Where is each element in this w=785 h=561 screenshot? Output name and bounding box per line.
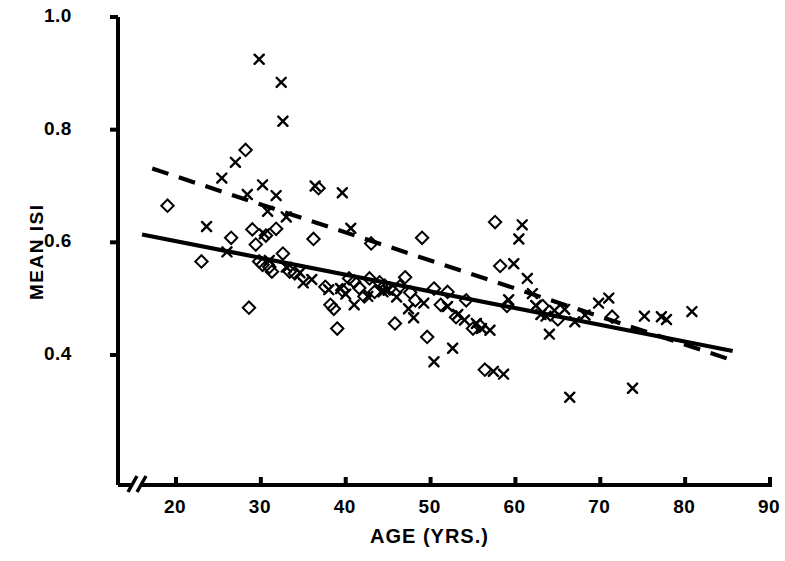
x-axis-label: AGE (YRS.) [370, 525, 489, 548]
y-tick-label: 1.0 [44, 5, 72, 27]
diamond-marker [243, 301, 255, 313]
x-marker [258, 180, 267, 189]
x-marker [687, 307, 696, 316]
x-marker [311, 181, 320, 190]
x-marker [545, 330, 554, 339]
diamond-marker [421, 331, 433, 343]
x-marker [350, 300, 359, 309]
diamond-marker [489, 216, 501, 228]
diamond-marker [270, 223, 282, 235]
x-marker [565, 393, 574, 402]
x-tick-label: 60 [503, 496, 525, 518]
x-marker [392, 292, 401, 301]
diamond-marker [250, 238, 262, 250]
x-tick-label: 40 [334, 496, 356, 518]
y-tick-label: 0.6 [44, 230, 72, 252]
x-marker [460, 315, 469, 324]
chart-figure: MEAN ISI AGE (YRS.) 1.00.80.60.4 2030405… [0, 0, 785, 561]
x-marker [628, 384, 637, 393]
x-marker [277, 78, 286, 87]
x-marker [272, 191, 281, 200]
diamond-marker [331, 322, 343, 334]
x-tick-label: 50 [419, 496, 441, 518]
x-marker [307, 275, 316, 284]
x-tick-label: 30 [249, 496, 271, 518]
x-marker [509, 259, 518, 268]
data-markers [161, 55, 696, 402]
diamond-marker [246, 223, 258, 235]
diamond-marker [307, 233, 319, 245]
y-tick-label: 0.8 [44, 118, 72, 140]
x-marker [346, 224, 355, 233]
x-marker [594, 299, 603, 308]
x-axis-break-icon [128, 476, 146, 492]
x-marker [217, 174, 226, 183]
diamond-marker [239, 144, 251, 156]
x-marker [448, 344, 457, 353]
diamond-marker [389, 317, 401, 329]
x-marker [523, 274, 532, 283]
x-marker [231, 158, 240, 167]
x-tick-label: 90 [758, 496, 780, 518]
dashed-fit-line [152, 169, 730, 360]
x-tick-label: 80 [673, 496, 695, 518]
diamond-marker [277, 247, 289, 259]
x-marker [485, 326, 494, 335]
x-marker [604, 294, 613, 303]
axis-ticks [110, 17, 770, 485]
x-marker [429, 357, 438, 366]
x-tick-label: 20 [164, 496, 186, 518]
x-marker [299, 278, 308, 287]
x-marker [295, 268, 304, 277]
x-marker [531, 301, 540, 310]
solid-fit-line [142, 234, 733, 351]
x-marker [202, 222, 211, 231]
x-marker [324, 285, 333, 294]
diamond-marker [416, 232, 428, 244]
x-marker [499, 370, 508, 379]
x-marker [338, 188, 347, 197]
x-marker [640, 312, 649, 321]
x-marker [550, 306, 559, 315]
x-marker [419, 299, 428, 308]
diamond-marker [161, 200, 173, 212]
x-marker [409, 313, 418, 322]
scatter-plot-canvas [0, 0, 785, 561]
diamond-marker [225, 232, 237, 244]
x-marker [504, 295, 513, 304]
x-marker [255, 55, 264, 64]
x-marker [341, 290, 350, 299]
fit-lines [142, 169, 733, 360]
x-tick-label: 70 [588, 496, 610, 518]
diamond-marker [494, 260, 506, 272]
x-marker [404, 304, 413, 313]
x-marker [278, 117, 287, 126]
x-marker [514, 234, 523, 243]
x-marker [243, 190, 252, 199]
x-marker [518, 220, 527, 229]
y-tick-label: 0.4 [44, 343, 72, 365]
diamond-marker [195, 255, 207, 267]
